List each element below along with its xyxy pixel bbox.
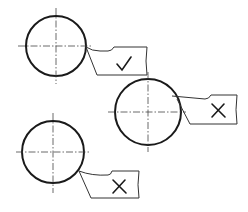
check-mark-icon bbox=[117, 57, 131, 70]
cutting-tool bbox=[79, 171, 139, 198]
x-mark-icon bbox=[113, 180, 126, 193]
tool-setting-diagram bbox=[0, 0, 248, 212]
case-1-on-center bbox=[18, 8, 147, 84]
case-2-above-center bbox=[108, 72, 237, 152]
cutting-tool bbox=[86, 47, 147, 75]
x-mark-icon bbox=[212, 104, 225, 117]
case-3-below-center bbox=[16, 113, 139, 198]
